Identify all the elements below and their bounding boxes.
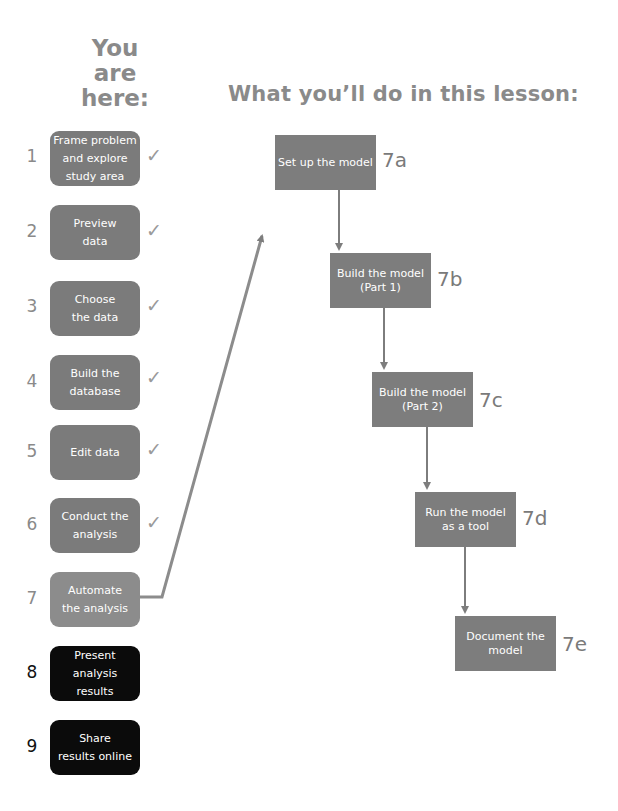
substep-7b-label: 7b (437, 267, 462, 291)
substep-7e-label: 7e (562, 632, 587, 656)
step-number-6: 6 (22, 514, 42, 534)
step-6-box: Conduct the analysis (50, 498, 140, 553)
substep-7c-label: 7c (479, 388, 503, 412)
step-8-box: Present analysis results (50, 646, 140, 701)
step-4-box: Build the database (50, 355, 140, 410)
step-1-box: Frame problem and explore study area (50, 131, 140, 186)
step-2-box: Preview data (50, 205, 140, 260)
checkmark-icon: ✓ (146, 294, 162, 316)
step-number-1: 1 (22, 146, 42, 166)
step-number-9: 9 (22, 736, 42, 756)
step-number-7: 7 (22, 588, 42, 608)
checkmark-icon: ✓ (146, 438, 162, 460)
step-number-8: 8 (22, 662, 42, 682)
substep-7c-box: Build the model (Part 2) (372, 372, 473, 427)
checkmark-icon: ✓ (146, 219, 162, 241)
step-number-4: 4 (22, 371, 42, 391)
substep-7d-box: Run the model as a tool (415, 492, 516, 547)
step-7-box-current: Automate the analysis (50, 572, 140, 627)
step-number-5: 5 (22, 441, 42, 461)
checkmark-icon: ✓ (146, 144, 162, 166)
step-5-box: Edit data (50, 425, 140, 480)
checkmark-icon: ✓ (146, 366, 162, 388)
step-3-box: Choose the data (50, 281, 140, 336)
substep-7e-box: Document the model (455, 616, 556, 671)
step-9-box: Share results online (50, 720, 140, 775)
substep-7b-box: Build the model (Part 1) (330, 253, 431, 308)
substep-7d-label: 7d (522, 506, 547, 530)
step-number-3: 3 (22, 296, 42, 316)
checkmark-icon: ✓ (146, 511, 162, 533)
substep-7a-label: 7a (382, 148, 407, 172)
step7-to-lesson-arrow (140, 236, 262, 597)
step-number-2: 2 (22, 221, 42, 241)
substep-7a-box: Set up the model (275, 135, 376, 190)
